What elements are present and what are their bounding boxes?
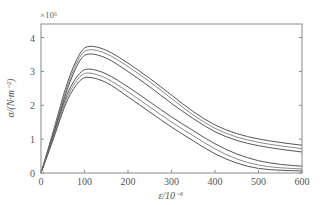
y-tick-label: 3 bbox=[30, 66, 35, 77]
series-line-curve-1 bbox=[41, 46, 302, 173]
y-tick-label: 0 bbox=[30, 168, 35, 179]
x-tick-label: 300 bbox=[164, 176, 179, 187]
x-tick-label: 200 bbox=[121, 176, 136, 187]
series-line-curve-2 bbox=[41, 50, 302, 173]
series-line-curve-4 bbox=[41, 69, 302, 173]
stress-strain-chart: 010020030040050060001234 ×10⁶ ε/10⁻⁶ σ/(… bbox=[0, 0, 325, 205]
x-tick-label: 500 bbox=[251, 176, 266, 187]
y-tick-label: 1 bbox=[30, 134, 35, 145]
axis-ticks: 010020030040050060001234 bbox=[30, 33, 310, 187]
y-tick-label: 2 bbox=[30, 100, 35, 111]
y-tick-label: 4 bbox=[30, 33, 35, 44]
y-axis-label: σ/(N·m⁻²) bbox=[5, 78, 17, 117]
plot-area bbox=[41, 46, 302, 173]
series-line-curve-3 bbox=[41, 54, 302, 173]
x-tick-label: 600 bbox=[295, 176, 310, 187]
x-tick-label: 400 bbox=[208, 176, 223, 187]
series-line-curve-5 bbox=[41, 73, 302, 173]
series-line-curve-6 bbox=[41, 77, 302, 173]
y-scale-label: ×10⁶ bbox=[40, 10, 57, 20]
x-axis-label: ε/10⁻⁶ bbox=[158, 190, 184, 201]
x-tick-label: 0 bbox=[39, 176, 44, 187]
x-tick-label: 100 bbox=[77, 176, 92, 187]
